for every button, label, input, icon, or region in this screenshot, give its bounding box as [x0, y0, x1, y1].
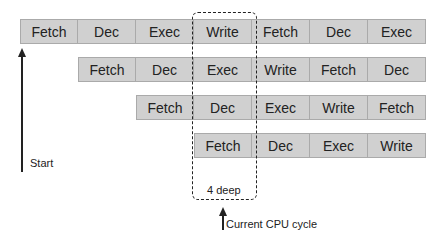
- current-cycle-arrow-icon: [219, 207, 227, 216]
- stage-cell: Exec: [252, 95, 310, 120]
- stage-cell: Fetch: [252, 19, 310, 44]
- stage-cell: Fetch: [368, 95, 426, 120]
- stage-cell: Fetch: [78, 57, 136, 82]
- stage-cell: Write: [252, 57, 310, 82]
- current-cycle-label: Current CPU cycle: [226, 218, 317, 230]
- stage-cell: Fetch: [20, 19, 78, 44]
- stage-cell: Dec: [78, 19, 136, 44]
- start-label: Start: [30, 157, 53, 169]
- stage-cell: Dec: [368, 57, 426, 82]
- depth-label: 4 deep: [207, 184, 241, 196]
- stage-cell: Fetch: [310, 57, 368, 82]
- stage-cell: Dec: [136, 57, 194, 82]
- current-cycle-arrow-line: [222, 214, 224, 230]
- pipeline-row: FetchDecExecWriteFetch: [136, 95, 426, 120]
- stage-cell: Dec: [252, 133, 310, 158]
- stage-cell: Exec: [368, 19, 426, 44]
- stage-cell: Dec: [310, 19, 368, 44]
- start-arrow-line: [21, 55, 23, 172]
- start-arrow-icon: [18, 48, 26, 57]
- stage-cell: Write: [368, 133, 426, 158]
- current-cycle-highlight-box: [192, 12, 257, 200]
- stage-cell: Exec: [310, 133, 368, 158]
- stage-cell: Fetch: [136, 95, 194, 120]
- stage-cell: Exec: [136, 19, 194, 44]
- stage-cell: Write: [310, 95, 368, 120]
